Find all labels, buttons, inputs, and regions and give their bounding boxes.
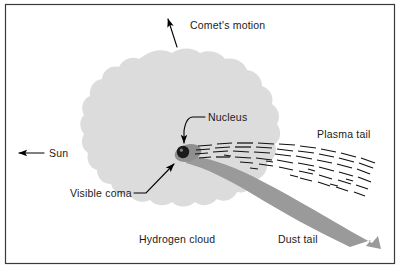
sun-label: Sun <box>49 147 68 159</box>
comet-diagram-figure: Comet's motion Sun Nucleus Visible coma … <box>0 0 400 269</box>
dust-tail-label: Dust tail <box>278 233 318 245</box>
nucleus-shape <box>177 146 189 158</box>
plasma-tail-label: Plasma tail <box>317 128 371 140</box>
visible-coma-label: Visible coma <box>70 187 132 199</box>
hydrogen-cloud-label: Hydrogen cloud <box>139 233 215 245</box>
nucleus-label: Nucleus <box>208 111 247 123</box>
comet-motion-label: Comet's motion <box>190 19 265 31</box>
diagram-canvas: Comet's motion Sun Nucleus Visible coma … <box>0 0 400 269</box>
